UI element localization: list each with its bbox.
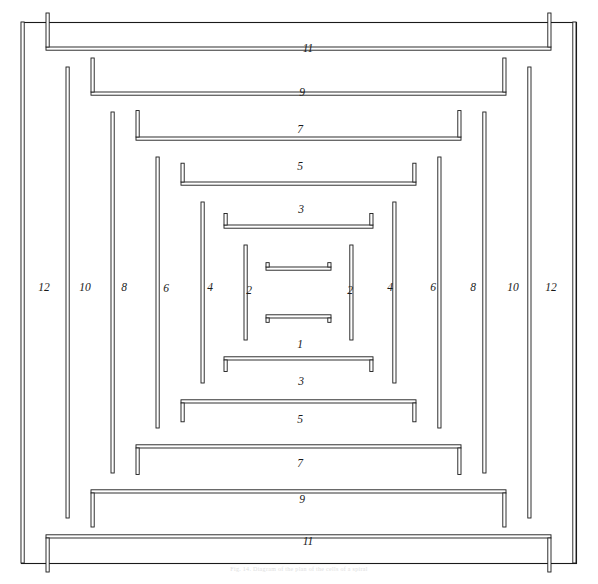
- ring-9-stub-tr: [503, 58, 506, 92]
- ring-7-bar-top: [136, 137, 461, 140]
- ring-11-stub-tr: [548, 13, 551, 47]
- ring-label-right-4: 10: [507, 281, 519, 293]
- ring-7-stub-tl: [136, 111, 139, 137]
- ring-label-top-0: 11: [303, 42, 314, 54]
- ring-11-bar-top: [46, 47, 551, 50]
- figure-canvas: 11975313579111210864224681012: [0, 0, 598, 584]
- ring-5-stub-br: [413, 403, 416, 422]
- ring-5-bar-bottom: [181, 400, 416, 403]
- ring-12-bar-right: [573, 22, 576, 563]
- ring-1-stub-tr: [328, 263, 331, 267]
- ring-9-stub-br: [503, 493, 506, 527]
- ring-11-bar-bottom: [46, 535, 551, 538]
- ring-label-bottom-0: 1: [297, 338, 303, 350]
- ring-3-stub-br: [370, 360, 373, 371]
- ring-4-bar-left: [201, 202, 204, 383]
- ring-10-bar-right: [528, 67, 531, 518]
- ring-1-bar-top: [266, 267, 331, 270]
- ring-1-bar-bottom: [266, 315, 331, 318]
- ring-9-stub-bl: [91, 493, 94, 527]
- ring-5-stub-bl: [181, 403, 184, 422]
- ring-5-stub-tr: [413, 163, 416, 182]
- ring-4-bar-right: [393, 202, 396, 383]
- ring-5-stub-tl: [181, 163, 184, 182]
- ring-6-bar-right: [438, 157, 441, 428]
- ring-7-stub-bl: [136, 448, 139, 474]
- ring-label-left-4: 4: [207, 281, 213, 293]
- ring-label-right-0: 2: [347, 284, 353, 296]
- ring-7-bar-bottom: [136, 445, 461, 448]
- ring-1-stub-bl: [266, 318, 269, 322]
- ring-11-stub-tl: [46, 13, 49, 47]
- ring-7-stub-br: [458, 448, 461, 474]
- ring-label-bottom-2: 5: [297, 413, 303, 425]
- ring-label-bottom-4: 9: [299, 493, 305, 505]
- ring-label-bottom-1: 3: [297, 375, 304, 387]
- ring-label-left-0: 12: [38, 281, 50, 293]
- ring-label-top-3: 5: [297, 160, 303, 172]
- ring-label-top-4: 3: [297, 203, 304, 215]
- ring-8-bar-right: [483, 112, 486, 473]
- ring-8-bar-left: [111, 112, 114, 473]
- ring-3-stub-tl: [224, 214, 227, 225]
- ring-12-bar-left: [21, 22, 24, 563]
- ring-label-bottom-5: 11: [303, 535, 314, 547]
- ring-5-bar-top: [181, 182, 416, 185]
- ring-3-stub-tr: [370, 214, 373, 225]
- ring-1-stub-br: [328, 318, 331, 322]
- ring-label-left-5: 2: [246, 284, 252, 296]
- ring-3-bar-bottom: [224, 357, 373, 360]
- ring-label-top-1: 9: [299, 86, 305, 98]
- ring-10-bar-left: [66, 67, 69, 518]
- ring-label-right-5: 12: [545, 281, 557, 293]
- ring-3-bar-top: [224, 225, 373, 228]
- ring-3-stub-bl: [224, 360, 227, 371]
- ring-1-stub-tl: [266, 263, 269, 267]
- ring-label-right-1: 4: [387, 281, 393, 293]
- ring-7-stub-tr: [458, 111, 461, 137]
- ring-label-left-3: 6: [163, 282, 169, 294]
- ring-label-left-1: 10: [79, 281, 91, 293]
- ring-label-right-3: 8: [470, 281, 476, 293]
- spiral-diagram: 11975313579111210864224681012: [0, 0, 598, 584]
- ring-label-left-2: 8: [121, 281, 127, 293]
- ring-6-bar-left: [156, 157, 159, 428]
- ring-9-stub-tl: [91, 58, 94, 92]
- ring-label-right-2: 6: [430, 281, 436, 293]
- figure-caption: Fig. 14. Diagram of the plan of the cell…: [0, 566, 598, 572]
